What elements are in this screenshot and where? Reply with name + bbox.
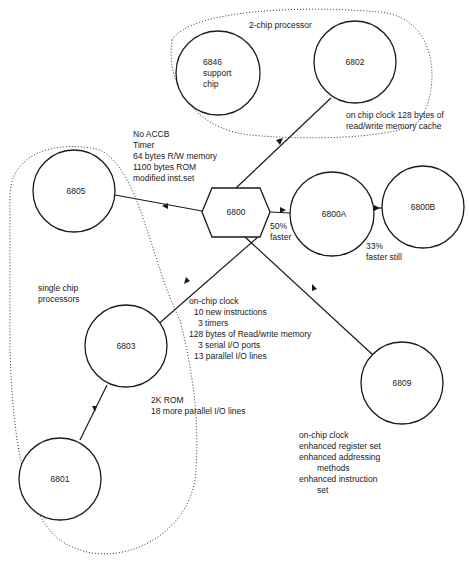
annotation-6800A-1: 50%	[270, 221, 287, 231]
annotation-6803-2: 10 new instructions	[194, 307, 267, 317]
node-6800A-label: 6800A	[322, 209, 347, 219]
annotation-6803-4: 128 bytes of Read/write memory	[189, 329, 312, 339]
annotation-6803-6: 13 parallel I/O lines	[194, 351, 267, 361]
node-6846-label-3: chip	[203, 79, 219, 89]
annotation-6809-6: set	[317, 485, 329, 495]
annotation-6802-2: read/write memory cache	[346, 121, 442, 131]
node-6803-label: 6803	[117, 341, 136, 351]
annotation-6805-4: 1100 bytes ROM	[133, 162, 196, 172]
annotation-6801-2: 18 more parallel I/O lines	[151, 406, 246, 416]
node-6805-label: 6805	[67, 186, 86, 196]
node-6809-label: 6809	[393, 378, 412, 388]
annotation-6809-5: enhanced instruction	[299, 474, 378, 484]
annotation-6803-1: on-chip clock	[189, 296, 239, 306]
annotation-6809-3: enhanced addressing	[299, 452, 381, 462]
annotation-6805-3: 64 bytes R/W memory	[133, 151, 218, 161]
arrowhead-icon	[374, 205, 380, 211]
annotation-6809-1: on-chip clock	[299, 430, 349, 440]
annotation-6805-1: No ACCB	[133, 129, 170, 139]
node-6846-label-2: support	[203, 68, 232, 78]
node-6846-label-1: 6846	[203, 57, 222, 67]
annotation-6801-1: 2K ROM	[151, 395, 184, 405]
arrowhead-icon	[184, 277, 190, 284]
annotation-6800A-2: faster	[270, 232, 291, 242]
node-6800-label: 6800	[227, 207, 246, 217]
node-6800B-label: 6800B	[411, 202, 436, 212]
two-chip-group-label: 2-chip processor	[249, 20, 312, 30]
single-chip-group-label-2: processors	[38, 294, 80, 304]
edge-6803-6801	[80, 385, 107, 440]
single-chip-group-label-1: single chip	[38, 283, 78, 293]
microprocessor-family-diagram: 6800 6802 6846 support chip 6805 6800A 6…	[0, 0, 469, 581]
arrowhead-icon	[312, 284, 317, 291]
node-6802-label: 6802	[346, 57, 365, 67]
annotation-6805-2: Timer	[133, 140, 155, 150]
annotation-6805-5: modified inst.set	[133, 173, 195, 183]
annotation-6800B-2: faster still	[366, 252, 402, 262]
annotation-6809-2: enhanced register set	[299, 441, 381, 451]
annotation-6800B-1: 33%	[366, 241, 383, 251]
annotation-6803-3: 3 timers	[198, 318, 228, 328]
annotation-6809-4: methods	[317, 463, 350, 473]
annotation-6802-1: on chip clock 128 bytes of	[346, 110, 444, 120]
node-6801-label: 6801	[51, 474, 70, 484]
annotation-6803-5: 3 serial I/O ports	[198, 340, 260, 350]
edge-6800-6805	[115, 195, 202, 211]
